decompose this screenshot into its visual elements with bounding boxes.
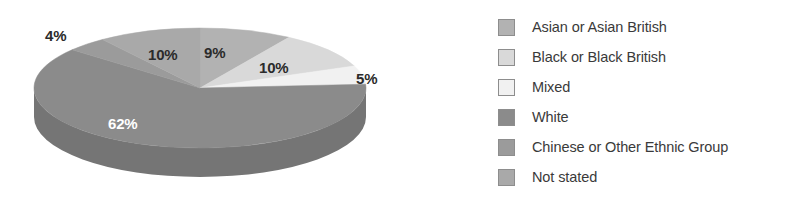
legend-swatch-icon [498, 79, 515, 96]
slice-label-black: 10% [259, 60, 288, 75]
pie-slice-tops [34, 28, 366, 148]
pie-chart-figure: 4% 10% 9% 10% 5% 62% Asian or Asian Brit… [0, 0, 812, 210]
pie-chart-svg [0, 0, 470, 210]
legend-item-label: White [532, 110, 569, 125]
legend-swatch-icon [498, 109, 515, 126]
pie-chart-area: 4% 10% 9% 10% 5% 62% [0, 0, 470, 210]
legend-item[interactable]: Mixed [498, 72, 812, 102]
legend-item[interactable]: Chinese or Other Ethnic Group [498, 132, 812, 162]
legend-swatch-icon [498, 49, 515, 66]
legend-item-label: Asian or Asian British [532, 20, 667, 35]
legend-item-label: Chinese or Other Ethnic Group [532, 140, 728, 155]
slice-label-not-stated: 10% [148, 47, 177, 62]
slice-label-chinese: 4% [45, 28, 66, 43]
legend-swatch-icon [498, 139, 515, 156]
slice-label-white: 62% [108, 116, 137, 131]
slice-label-mixed: 5% [356, 71, 377, 86]
legend-item[interactable]: Not stated [498, 162, 812, 192]
legend-swatch-icon [498, 169, 515, 186]
legend-item-label: Mixed [532, 80, 570, 95]
legend-item-label: Black or Black British [532, 50, 666, 65]
legend-item[interactable]: Black or Black British [498, 42, 812, 72]
legend-swatch-icon [498, 19, 515, 36]
legend-item-label: Not stated [532, 170, 597, 185]
chart-legend: Asian or Asian BritishBlack or Black Bri… [498, 12, 812, 202]
legend-item[interactable]: Asian or Asian British [498, 12, 812, 42]
slice-label-asian: 9% [204, 45, 225, 60]
legend-item[interactable]: White [498, 102, 812, 132]
